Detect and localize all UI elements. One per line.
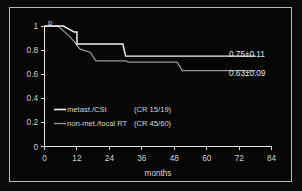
x-tick-label-2: 24 — [105, 154, 115, 163]
legend-detail-metast-csi: (CR 15/19) — [134, 105, 172, 114]
y-tick-label-3: 0.6 — [27, 70, 39, 79]
x-tick-label-7: 84 — [267, 154, 277, 163]
x-tick-label-3: 36 — [137, 154, 147, 163]
x-tick-label-0: 0 — [42, 154, 47, 163]
y-tick-label-2: 0.4 — [27, 94, 39, 103]
x-tick-label-5: 60 — [202, 154, 212, 163]
series-line-metast-csi — [45, 26, 256, 56]
x-tick-label-6: 72 — [235, 154, 245, 163]
x-tick-label-1: 12 — [72, 154, 82, 163]
y-ticks: 0 0.2 0.4 0.6 0.8 1 — [27, 22, 45, 152]
legend-detail-non-met-focal-rt: (CR 45/60) — [134, 119, 172, 128]
legend-label-metast-csi: metast./CSI — [67, 105, 107, 114]
plot-frame: p 0 0.2 0.4 0.6 0.8 1 0 — [9, 7, 292, 182]
legend-label-non-met-focal-rt: non-met./focal RT — [67, 119, 128, 128]
survival-chart: p 0 0.2 0.4 0.6 0.8 1 0 — [10, 8, 291, 181]
figure-container: p 0 0.2 0.4 0.6 0.8 1 0 — [0, 0, 302, 191]
y-tick-label-1: 0.2 — [27, 118, 39, 127]
x-ticks: 0 12 24 36 48 60 72 84 — [42, 147, 276, 164]
y-tick-label-5: 1 — [33, 22, 38, 31]
y-tick-label-0: 0 — [33, 143, 38, 152]
legend: metast./CSI (CR 15/19) non-met./focal RT… — [54, 105, 172, 128]
x-tick-label-4: 48 — [170, 154, 180, 163]
annotation-upper-value: 0.75±0.11 — [229, 50, 265, 59]
y-tick-label-4: 0.8 — [27, 46, 39, 55]
x-axis-title: months — [145, 169, 172, 178]
annotation-lower-value: 0.63±0.09 — [229, 69, 266, 78]
